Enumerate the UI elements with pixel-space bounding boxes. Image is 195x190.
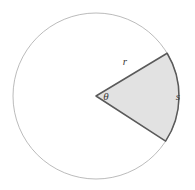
radius-label: r xyxy=(123,55,128,67)
circle-sector-diagram: r θ s xyxy=(0,0,195,190)
figure-container: r θ s xyxy=(0,0,195,190)
angle-label: θ xyxy=(103,90,109,102)
arc-length-label: s xyxy=(176,90,180,102)
